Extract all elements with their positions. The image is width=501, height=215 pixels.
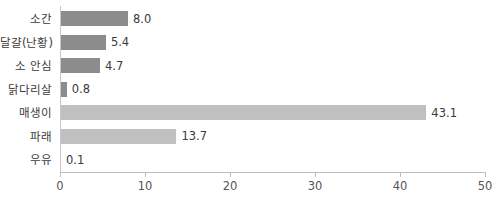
bar-value-label: 5.4 — [111, 37, 129, 49]
bar — [60, 58, 100, 73]
x-axis-tick — [230, 172, 231, 177]
category-label: 우유 — [0, 155, 58, 167]
bar — [60, 35, 106, 50]
x-axis-tick-label: 30 — [308, 181, 323, 193]
category-label: 달걀(난황) — [0, 38, 58, 50]
x-axis-tick-label: 0 — [56, 181, 63, 193]
bar-value-label: 0.8 — [72, 84, 90, 96]
bar-value-label: 4.7 — [105, 61, 123, 73]
bar-value-label: 0.1 — [66, 155, 84, 167]
x-axis-tick — [400, 172, 401, 177]
bar — [60, 11, 128, 26]
x-axis-tick — [315, 172, 316, 177]
x-axis-tick-label: 40 — [393, 181, 408, 193]
category-label: 소 안심 — [0, 61, 58, 73]
bar-chart: 소간달걀(난황)소 안심닭다리살매생이파래우유 8.05.44.70.843.1… — [0, 0, 501, 215]
category-label: 소간 — [0, 14, 58, 26]
category-label: 파래 — [0, 132, 58, 144]
x-axis-tick — [145, 172, 146, 177]
bar-value-label: 43.1 — [431, 108, 457, 120]
bar — [60, 105, 426, 120]
bar-value-label: 13.7 — [181, 131, 207, 143]
plot-area: 8.05.44.70.843.113.70.1 — [60, 0, 485, 172]
y-axis-line — [60, 6, 61, 172]
x-axis-tick-label: 50 — [478, 181, 493, 193]
x-axis-tick — [60, 172, 61, 177]
x-axis-tick-label: 10 — [138, 181, 153, 193]
category-label: 매생이 — [0, 108, 58, 120]
bar — [60, 129, 176, 144]
category-axis-labels: 소간달걀(난황)소 안심닭다리살매생이파래우유 — [0, 0, 58, 215]
bar-value-label: 8.0 — [133, 14, 151, 26]
x-axis-line — [60, 172, 486, 173]
category-label: 닭다리살 — [0, 85, 58, 97]
x-axis-tick — [485, 172, 486, 177]
bar — [60, 82, 67, 97]
x-axis-tick-label: 20 — [223, 181, 238, 193]
